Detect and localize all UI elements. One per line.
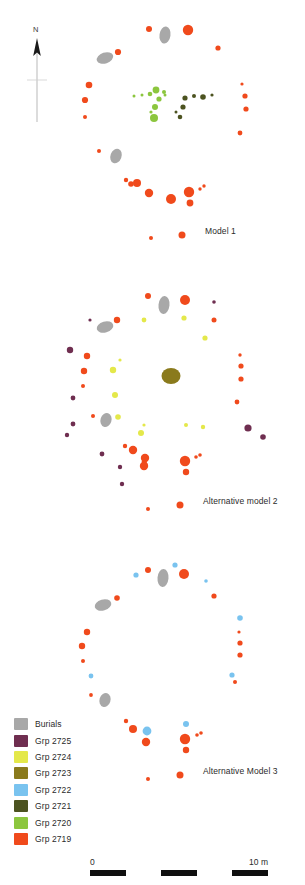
feature-grp-2719 (237, 652, 242, 657)
feature-grp-2719 (114, 595, 120, 601)
feature-grp-2719 (177, 502, 184, 509)
feature-grp-2719 (238, 353, 241, 356)
feature-grp-2719 (145, 189, 153, 197)
feature-grp-2725 (67, 347, 73, 353)
feature-grp-2725 (120, 482, 124, 486)
feature-grp-2724 (115, 414, 121, 420)
feature-grp-2719 (177, 772, 184, 779)
legend-label: Grp 2719 (35, 834, 71, 844)
feature-grp-2725 (88, 318, 91, 321)
legend-swatch-icon (14, 735, 28, 747)
feature-grp-2719 (195, 733, 199, 737)
legend-row-grp-2722: Grp 2722 (14, 782, 96, 798)
legend-row-grp-2720: Grp 2720 (14, 814, 96, 830)
feature-grp-2719 (179, 569, 189, 579)
feature-grp-2719 (86, 82, 93, 89)
scale-bar: 0 10 m (90, 857, 268, 881)
feature-grp-2719 (199, 731, 203, 735)
legend-swatch-icon (14, 751, 28, 763)
feature-grp-2719 (81, 659, 85, 663)
feature-grp-2719 (123, 444, 127, 448)
feature-grp-2719 (84, 629, 90, 635)
feature-grp-2719 (237, 630, 240, 633)
feature-grp-2719 (238, 376, 243, 381)
feature-grp-2719 (91, 414, 95, 418)
feature-grp-2719 (142, 738, 150, 746)
feature-grp-2724 (118, 358, 121, 361)
feature-grp-2724 (201, 425, 205, 429)
feature-grp-2725 (65, 433, 69, 437)
legend-row-grp-2725: Grp 2725 (14, 732, 96, 748)
feature-grp-2719 (183, 469, 189, 475)
feature-grp-2724 (184, 423, 188, 427)
feature-grp-2724 (138, 430, 144, 436)
feature-grp-2719 (81, 384, 85, 388)
scale-bar-right-label: 10 m (249, 857, 268, 867)
feature-grp-2719 (242, 93, 247, 98)
feature-grp-2719 (183, 747, 189, 753)
scale-bar-segment (126, 870, 162, 876)
feature-grp-2719 (179, 232, 186, 239)
scale-bar-left-label: 0 (90, 857, 95, 867)
scale-bar-segment (90, 870, 126, 876)
feature-grp-2725 (71, 422, 76, 427)
legend-swatch-icon (14, 784, 28, 796)
panel-label-alt-model-2: Alternative model 2 (203, 496, 278, 506)
panel-label-alt-model-3: Alternative Model 3 (203, 766, 278, 776)
feature-grp-2722 (237, 615, 243, 621)
feature-grp-2720 (133, 95, 136, 98)
feature-grp-2719 (83, 115, 87, 119)
feature-grp-2719 (187, 200, 194, 207)
feature-grp-2722 (229, 672, 234, 677)
feature-grp-2719 (115, 49, 121, 55)
feature-grp-2719 (128, 181, 134, 187)
feature-grp-2725 (100, 452, 105, 457)
feature-grp-2719 (194, 455, 198, 459)
legend-label: Grp 2725 (35, 736, 71, 746)
feature-grp-2724 (142, 318, 147, 323)
feature-grp-2720 (153, 87, 160, 94)
feature-grp-2725 (212, 300, 216, 304)
feature-grp-2720 (149, 110, 152, 113)
feature-grp-2721 (192, 94, 196, 98)
legend-swatch-icon (14, 767, 28, 779)
feature-grp-2725 (260, 434, 266, 440)
legend-label: Grp 2721 (35, 801, 71, 811)
feature-grp-2719 (180, 456, 190, 466)
feature-grp-2719 (81, 368, 87, 374)
feature-grp-2719 (202, 184, 205, 187)
feature-grp-2719 (198, 453, 202, 457)
feature-grp-2719 (140, 462, 148, 470)
feature-grp-2719 (129, 446, 137, 454)
feature-grp-2721 (210, 93, 213, 96)
feature-grp-2721 (175, 111, 178, 114)
feature-grp-2720 (164, 94, 167, 97)
feature-grp-2719 (237, 640, 242, 645)
feature-grp-2719 (79, 643, 85, 649)
feature-grp-2724 (112, 392, 118, 398)
feature-grp-2725 (118, 465, 122, 469)
feature-grp-2721 (178, 115, 183, 120)
scale-bar-segment (197, 870, 233, 876)
feature-grp-2719 (124, 719, 128, 723)
scale-bar-track (90, 870, 268, 876)
legend-row-grp-2721: Grp 2721 (14, 798, 96, 814)
legend-swatch-icon (14, 817, 28, 829)
legend-row-grp-2723: Grp 2723 (14, 765, 96, 781)
feature-grp-2719 (180, 295, 190, 305)
feature-grp-2721 (200, 94, 206, 100)
legend-label: Grp 2723 (35, 768, 71, 778)
feature-grp-2720 (141, 94, 144, 97)
feature-grp-2720 (162, 90, 166, 94)
feature-grp-2719 (82, 97, 88, 103)
feature-grp-2719 (211, 593, 216, 598)
feature-grp-2719 (166, 194, 176, 204)
feature-grp-2720 (156, 96, 161, 101)
feature-grp-2719 (146, 507, 150, 511)
legend-row-grp-2719: Grp 2719 (14, 831, 96, 847)
feature-grp-2719 (233, 680, 237, 684)
feature-grp-2722 (133, 572, 138, 577)
feature-grp-2719 (180, 734, 190, 744)
feature-grp-2725 (71, 396, 76, 401)
feature-grp-2724 (142, 423, 145, 426)
